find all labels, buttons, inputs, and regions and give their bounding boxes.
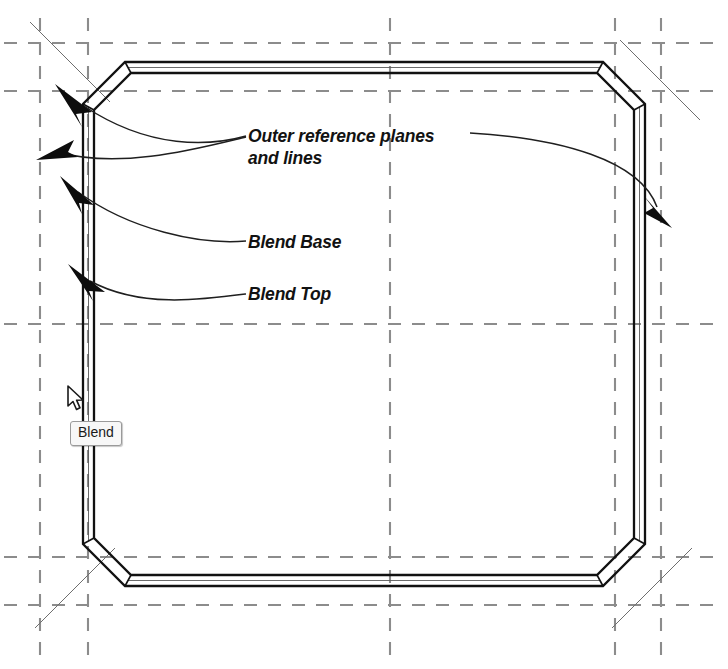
reference-planes xyxy=(4,18,724,660)
leader-blend-base xyxy=(78,192,246,242)
cursor-arrow-pointer xyxy=(66,385,86,413)
callout-outer-reference-planes: Outer reference planes and lines xyxy=(248,125,434,170)
callout-blend-base: Blend Base xyxy=(248,231,341,253)
chamfer-construction-bottom-left xyxy=(35,548,115,628)
cad-drawing-canvas[interactable]: Outer reference planes and lines Blend B… xyxy=(0,0,728,669)
arrowhead-outer-planes-right xyxy=(644,196,672,228)
blend-tooltip: Blend xyxy=(70,421,122,446)
callout-blend-top: Blend Top xyxy=(248,283,331,305)
cad-geometry xyxy=(0,0,728,669)
leader-outer-planes-corner xyxy=(84,106,246,143)
leader-arrowheads xyxy=(36,84,672,301)
arrowhead-outer-planes-left xyxy=(36,140,78,160)
leader-outer-planes-right xyxy=(470,133,657,207)
leader-outer-planes-left xyxy=(58,137,246,159)
arrowhead-blend-top xyxy=(68,264,105,301)
chamfer-construction-bottom-right xyxy=(612,548,692,628)
leader-blend-top xyxy=(90,281,246,300)
